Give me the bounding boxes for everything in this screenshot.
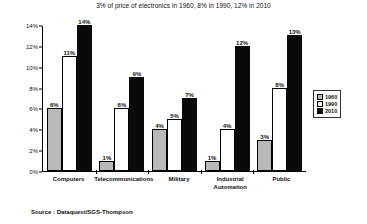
y-tick-label: 10% — [26, 65, 38, 71]
y-tick-label: 14% — [26, 23, 38, 29]
category-label-industrial-automation: IndustrialAutomation — [205, 176, 256, 191]
bar-rect: 8% — [272, 88, 287, 171]
bar-rect: 13% — [287, 35, 302, 171]
bar-value-label: 5% — [170, 113, 179, 119]
y-tick-mark — [39, 130, 42, 131]
bar-rect: 6% — [114, 108, 129, 171]
bar-1960-telecommunications[interactable]: 1% — [99, 161, 114, 171]
bar-value-label: 11% — [63, 50, 75, 56]
y-tick-label: 2% — [29, 148, 38, 154]
legend-item-1990[interactable]: 1990 — [317, 101, 337, 107]
y-tick-mark — [39, 172, 42, 173]
plot-area: 0%2%4%6%8%10%12%14% 6%11%14%1%6%9%4%5%7%… — [42, 26, 306, 172]
y-tick-mark — [39, 26, 42, 27]
legend-label: 1990 — [325, 101, 337, 107]
bar-1990-telecommunications[interactable]: 6% — [114, 108, 129, 171]
category-label-line: Public — [256, 176, 307, 184]
legend-label: 2010 — [325, 108, 337, 114]
bar-rect: 9% — [129, 77, 144, 171]
bar-value-label: 13% — [289, 29, 301, 35]
bar-1990-public[interactable]: 8% — [272, 88, 287, 171]
bar-value-label: 6% — [50, 102, 59, 108]
bar-value-label: 7% — [185, 92, 194, 98]
bar-group: 6%11%14% — [43, 26, 96, 171]
y-tick-label: 8% — [29, 86, 38, 92]
bar-rect: 7% — [182, 98, 197, 171]
legend-swatch-icon — [317, 101, 323, 107]
y-tick-label: 6% — [29, 106, 38, 112]
bar-rect: 4% — [152, 129, 167, 171]
source-note: Source : Dataquest/SGS-Thompson — [31, 209, 133, 215]
bar-rect: 6% — [47, 108, 62, 171]
bar-1990-computers[interactable]: 11% — [62, 56, 77, 171]
category-label-line: Telecommunications — [94, 176, 153, 184]
bar-value-label: 8% — [275, 82, 284, 88]
bar-2010-computers[interactable]: 14% — [77, 25, 92, 171]
x-axis-category-labels: ComputersTelecommunicationsMilitaryIndus… — [43, 176, 307, 191]
y-tick-label: 0% — [29, 169, 38, 175]
bar-rect: 3% — [257, 140, 272, 171]
legend-swatch-icon — [317, 94, 323, 100]
x-axis-separator-tick — [253, 170, 254, 174]
bars-layer: 6%11%14%1%6%9%4%5%7%1%4%12%3%8%13% — [43, 26, 306, 171]
y-tick-mark — [39, 109, 42, 110]
bar-rect: 4% — [220, 129, 235, 171]
bar-rect: 11% — [62, 56, 77, 171]
bar-1960-industrial-automation[interactable]: 1% — [205, 161, 220, 171]
y-tick-mark — [39, 88, 42, 89]
bar-value-label: 14% — [78, 19, 90, 25]
bar-value-label: 4% — [223, 123, 232, 129]
bar-1990-industrial-automation[interactable]: 4% — [220, 129, 235, 171]
bar-value-label: 9% — [133, 71, 142, 77]
bar-group: 3%8%13% — [253, 26, 306, 171]
y-tick-label: 12% — [26, 44, 38, 50]
bar-rect: 1% — [205, 161, 220, 171]
bar-value-label: 3% — [260, 134, 269, 140]
bar-1960-computers[interactable]: 6% — [47, 108, 62, 171]
category-label-telecommunications: Telecommunications — [94, 176, 153, 191]
category-label-line: Computers — [43, 176, 94, 184]
bar-rect: 12% — [235, 46, 250, 171]
bar-1990-military[interactable]: 5% — [167, 119, 182, 171]
legend-item-2010[interactable]: 2010 — [317, 108, 337, 114]
bar-2010-telecommunications[interactable]: 9% — [129, 77, 144, 171]
chart-legend: 196019902010 — [313, 90, 341, 118]
legend-item-1960[interactable]: 1960 — [317, 94, 337, 100]
bar-2010-military[interactable]: 7% — [182, 98, 197, 171]
y-tick-mark — [39, 67, 42, 68]
category-label-line: Military — [153, 176, 204, 184]
bar-1960-military[interactable]: 4% — [152, 129, 167, 171]
category-label-computers: Computers — [43, 176, 94, 191]
chart-title: 3% of price of electronics in 1960, 8% i… — [0, 2, 367, 9]
y-tick-mark — [39, 151, 42, 152]
x-axis-line — [42, 171, 306, 172]
bar-group: 1%6%9% — [96, 26, 149, 171]
category-label-line: Industrial — [205, 176, 256, 184]
legend-swatch-icon — [317, 108, 323, 114]
y-tick-label: 4% — [29, 127, 38, 133]
bar-2010-public[interactable]: 13% — [287, 35, 302, 171]
category-label-public: Public — [256, 176, 307, 191]
bar-rect: 5% — [167, 119, 182, 171]
bar-value-label: 1% — [208, 155, 217, 161]
bar-value-label: 4% — [155, 123, 164, 129]
y-tick-mark — [39, 46, 42, 47]
bar-value-label: 1% — [103, 155, 112, 161]
bar-1960-public[interactable]: 3% — [257, 140, 272, 171]
bar-group: 1%4%12% — [201, 26, 254, 171]
x-axis-separator-tick — [148, 170, 149, 174]
x-axis-separator-tick — [201, 170, 202, 174]
bar-value-label: 12% — [236, 40, 248, 46]
bar-rect: 1% — [99, 161, 114, 171]
legend-label: 1960 — [325, 94, 337, 100]
bar-value-label: 6% — [118, 102, 127, 108]
category-label-military: Military — [153, 176, 204, 191]
x-axis-separator-tick — [96, 170, 97, 174]
bar-rect: 14% — [77, 25, 92, 171]
bar-group: 4%5%7% — [148, 26, 201, 171]
bar-2010-industrial-automation[interactable]: 12% — [235, 46, 250, 171]
category-label-line: Automation — [205, 184, 256, 192]
